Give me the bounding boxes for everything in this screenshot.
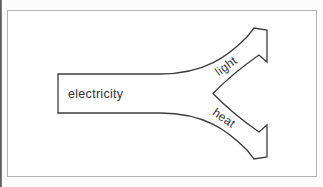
energy-flow-diagram: electricity light heat — [0, 0, 323, 187]
diagram-canvas: electricity light heat — [0, 0, 323, 187]
page-edge-strip — [0, 0, 2, 187]
electricity-label: electricity — [68, 87, 124, 101]
